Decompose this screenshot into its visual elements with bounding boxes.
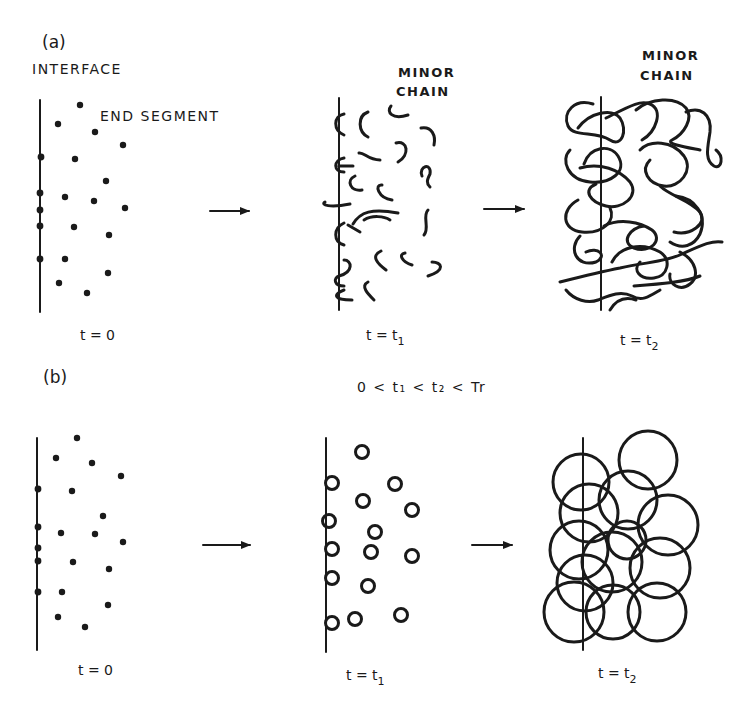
polymer-interdiffusion-diagram: (a) INTERFACE END SEGMENT [0, 0, 750, 706]
panel-b-time-t1: t = t1 [346, 667, 385, 688]
minor-chain-label-t1-line1: MINOR [398, 65, 455, 80]
panel-b-time-t0: t = 0 [78, 662, 113, 678]
panel-b-t2-overlapping-coils [544, 431, 698, 650]
panel-b-t0-end-segments [35, 435, 127, 650]
panel-a-t1-minor-chains [324, 98, 441, 310]
panel-a-t2-entangled-chains [560, 97, 722, 310]
end-segment-label: END SEGMENT [100, 108, 220, 124]
panel-a-time-t0: t = 0 [80, 327, 115, 343]
panel-a-label: (a) [42, 32, 66, 52]
minor-chain-label-t1-line2: CHAIN [396, 84, 450, 99]
minor-chain-label-t2-line2: CHAIN [640, 68, 694, 83]
time-condition-label: 0 < t₁ < t₂ < Tr [357, 379, 486, 395]
panel-b-t1-coils [323, 438, 419, 652]
minor-chain-label-t2-line1: MINOR [642, 48, 699, 63]
panel-b-time-t2: t = t2 [598, 665, 637, 686]
panel-a-t0-end-segments [37, 100, 129, 312]
panel-b: (b) 0 < t₁ < t₂ < Tr [35, 367, 698, 688]
panel-b-label: (b) [43, 367, 67, 387]
panel-a: (a) INTERFACE END SEGMENT [32, 32, 722, 353]
panel-a-time-t1: t = t1 [366, 327, 405, 348]
panel-a-time-t2: t = t2 [620, 332, 659, 353]
interface-label: INTERFACE [32, 61, 122, 77]
